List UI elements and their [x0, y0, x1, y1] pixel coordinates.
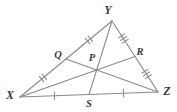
tick-mark-RZ	[142, 69, 152, 78]
label-centroid-P: P	[89, 52, 96, 63]
tick-stroke	[142, 69, 148, 73]
label-midpoint-S: S	[86, 98, 92, 109]
tick-stroke	[143, 72, 149, 76]
tick-stroke	[145, 75, 151, 79]
tick-stroke	[122, 39, 128, 43]
tick-stroke	[119, 34, 125, 38]
tick-mark-YR	[119, 34, 129, 43]
label-vertex-X: X	[5, 88, 15, 102]
label-vertex-Y: Y	[104, 3, 113, 17]
label-midpoint-Q: Q	[54, 49, 62, 60]
label-midpoint-R: R	[135, 46, 143, 57]
tick-stroke	[120, 37, 126, 41]
triangle-medians-diagram: Y X Z Q R S P	[0, 0, 177, 112]
geometry-figure-container: Y X Z Q R S P	[0, 0, 177, 112]
label-vertex-Z: Z	[162, 84, 171, 98]
